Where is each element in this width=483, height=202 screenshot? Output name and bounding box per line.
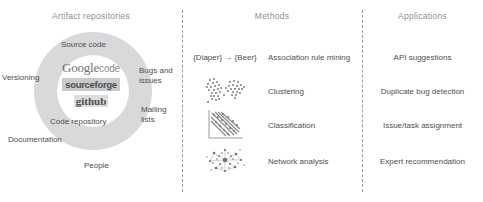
artifact-repositories-panel: Googlecode sourceforge github Source cod… <box>0 22 182 192</box>
scatter-clusters-icon <box>182 75 268 107</box>
diagram-figure: Artifact repositories Methods Applicatio… <box>0 0 483 202</box>
method-label-association-rule-mining: Association rule mining <box>268 53 362 62</box>
method-label-clustering: Clustering <box>268 87 362 96</box>
label-code-repository: Code repository <box>50 117 106 127</box>
sourceforge-logo-text: sourceforge <box>62 78 120 91</box>
method-label-classification: Classification <box>268 121 362 130</box>
google-code-logo-secondary: code <box>99 63 120 74</box>
method-row: Network analysis <box>182 142 362 180</box>
network-graph-icon <box>182 145 268 177</box>
application-item-duplicate-bug-detection: Duplicate bug detection <box>362 72 483 110</box>
method-label-network-analysis: Network analysis <box>268 157 362 166</box>
github-logo-text: github <box>74 95 109 107</box>
label-versioning: Versioning <box>2 73 39 83</box>
column-header-artifact-repositories: Artifact repositories <box>0 11 182 21</box>
method-row: Clustering <box>182 72 362 110</box>
method-row: Classification <box>182 106 362 144</box>
application-item-expert-recommendation: Expert recommendation <box>362 142 483 180</box>
label-mailing-lists: Mailing lists <box>141 105 171 124</box>
label-bugs-and-issues: Bugs and issues <box>139 66 173 85</box>
label-people: People <box>84 161 109 171</box>
method-row: {Diaper} → {Beer} Association rule minin… <box>182 38 362 76</box>
label-source-code: Source code <box>61 40 106 50</box>
column-header-methods: Methods <box>182 11 362 21</box>
google-code-logo-primary: Google <box>62 60 99 75</box>
association-rule-text: {Diaper} → {Beer} <box>182 53 268 62</box>
classification-boundary-icon <box>182 108 268 142</box>
column-header-applications: Applications <box>362 11 483 21</box>
application-item-issue-task-assignment: Issue/task assignment <box>362 106 483 144</box>
label-documentation: Documentation <box>8 135 62 145</box>
application-item-api-suggestions: API suggestions <box>362 38 483 76</box>
